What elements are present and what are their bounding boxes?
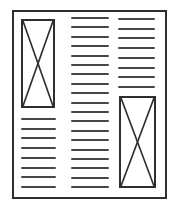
text-line [71,149,109,151]
text-line [71,102,109,104]
text-line [71,158,109,160]
placeholder-x-icon [23,21,53,106]
placeholder-x-icon [121,98,154,186]
text-line [21,147,56,149]
text-line [118,76,155,78]
text-line [71,45,109,47]
text-line [118,47,155,49]
text-line [21,157,56,159]
text-line [71,64,109,66]
right-image-placeholder [119,96,156,188]
text-line [118,57,155,59]
text-line [71,167,109,169]
right-text-lines [118,18,155,88]
text-line [71,55,109,57]
text-line [71,83,109,85]
text-line [71,120,109,122]
text-line [118,18,155,20]
text-line [21,167,56,169]
text-line [71,130,109,132]
text-line [21,118,56,120]
text-line [71,26,109,28]
text-line [71,73,109,75]
text-line [21,137,56,139]
text-line [71,17,109,19]
text-line [71,177,109,179]
text-line [71,186,109,188]
text-line [118,67,155,69]
left-image-placeholder [21,19,55,108]
left-text-lines [21,118,56,188]
layout-canvas [0,0,187,210]
text-line [118,28,155,30]
text-line [71,139,109,141]
text-line [118,37,155,39]
text-line [118,86,155,88]
text-line [21,176,56,178]
text-line [71,92,109,94]
text-line [71,111,109,113]
text-line [21,128,56,130]
middle-text-lines [71,17,109,188]
text-line [21,186,56,188]
text-line [71,36,109,38]
